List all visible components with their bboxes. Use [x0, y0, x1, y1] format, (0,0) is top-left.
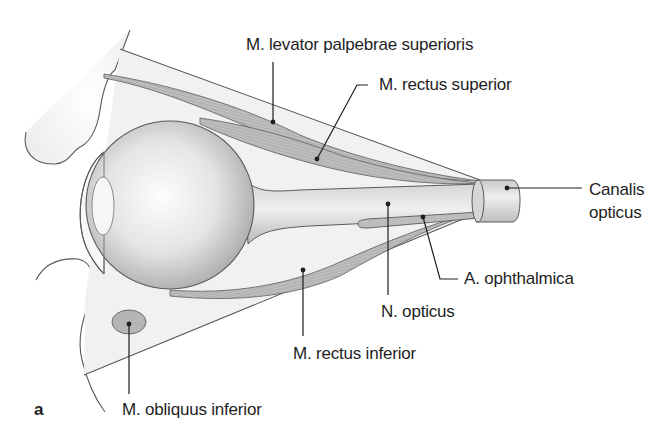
label-canalis-opticus-line2: opticus [589, 204, 641, 221]
label-ophthalmic-artery: A. ophthalmica [464, 270, 574, 287]
panel-letter: a [34, 400, 43, 420]
label-rectus-superior: M. rectus superior [379, 76, 511, 93]
lens [92, 177, 114, 235]
label-rectus-inferior: M. rectus inferior [293, 345, 416, 362]
label-obliquus-inferior: M. obliquus inferior [122, 401, 262, 418]
label-optic-nerve: N. opticus [381, 303, 455, 320]
label-canalis-opticus-line1: Canalis [589, 181, 644, 198]
eye-orbit-diagram [0, 0, 668, 439]
optic-canal [472, 180, 520, 222]
label-levator-palpebrae: M. levator palpebrae superioris [246, 36, 473, 53]
